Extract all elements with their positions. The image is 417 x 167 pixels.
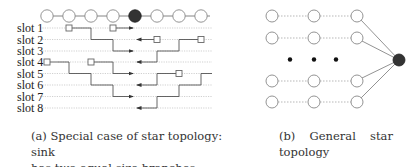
slot-label: slot 8 (17, 101, 43, 115)
caption-a: (a) Special case of star topology: sink … (31, 128, 231, 167)
caption-a-line2: has two equal size branches (31, 160, 231, 167)
node-circle (107, 10, 119, 22)
node-circle (41, 10, 53, 22)
transmission-paths (50, 28, 212, 108)
node-circle (151, 10, 163, 22)
slot-lines (40, 28, 212, 108)
caption-a-line1: (a) Special case of star topology: sink (31, 128, 231, 160)
node-circle (173, 10, 185, 22)
packet-box (88, 59, 94, 65)
ellipsis-dots (288, 57, 338, 61)
sink-node (129, 10, 141, 22)
packet-box (176, 71, 182, 77)
caption-b-word1: General (310, 128, 356, 144)
node-circle (195, 10, 207, 22)
figure-b (266, 10, 405, 108)
caption-b-line2: topology (279, 144, 393, 160)
figure-a: slot 1 slot 2 slot 3 slot 4 slot 5 slot … (17, 10, 212, 115)
packet-box (198, 37, 204, 43)
packet-box (44, 59, 50, 65)
sink-node (393, 54, 405, 66)
slot-labels: slot 1 slot 2 slot 3 slot 4 slot 5 slot … (17, 21, 43, 115)
caption-b-tag: (b) (279, 128, 295, 144)
caption-b-line1: (b) General star (279, 128, 393, 144)
node-circle (85, 10, 97, 22)
node-circle (63, 10, 75, 22)
caption-b: (b) General star topology (279, 128, 393, 160)
packet-box (154, 37, 160, 43)
caption-b-word2: star (370, 128, 393, 144)
packet-box (110, 25, 116, 31)
packet-box (66, 25, 72, 31)
